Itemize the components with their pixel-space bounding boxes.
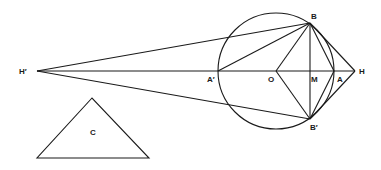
label-H-prime: H′ — [19, 67, 27, 76]
label-B-prime: B′ — [310, 123, 318, 132]
label-C: C — [90, 128, 96, 137]
geometry-diagram: H′ A′ O M A H B B′ C — [0, 0, 381, 170]
tangent-B-H — [310, 23, 355, 71]
line-B-A — [310, 23, 334, 71]
label-A: A — [337, 75, 343, 84]
line-O-Bprime — [276, 71, 310, 119]
line-O-B — [276, 23, 310, 71]
label-A-prime: A′ — [207, 75, 215, 84]
label-M: M — [311, 75, 318, 84]
label-H: H — [359, 67, 365, 76]
line-Aprime-B — [218, 23, 310, 71]
label-O: O — [268, 75, 274, 84]
label-B: B — [311, 12, 317, 21]
line-Hprime-B — [37, 23, 310, 71]
